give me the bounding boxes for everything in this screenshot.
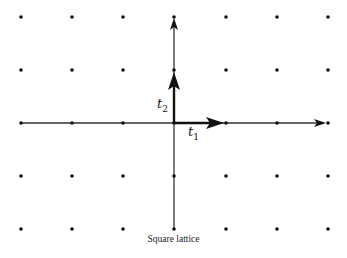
- lattice-point: [172, 121, 176, 125]
- figure-caption: Square lattice: [0, 234, 347, 244]
- vector-t2-label: t2: [157, 96, 168, 114]
- lattice-point: [19, 121, 23, 125]
- basis-vectors: [168, 72, 224, 129]
- lattice-point: [224, 15, 228, 19]
- lattice-point: [121, 68, 125, 72]
- lattice-point: [172, 174, 176, 178]
- lattice-point: [275, 227, 279, 231]
- lattice-point: [326, 15, 330, 19]
- lattice-point: [172, 15, 176, 19]
- lattice-figure: [0, 0, 347, 258]
- lattice-point: [70, 121, 74, 125]
- lattice-point: [19, 174, 23, 178]
- vector-t1-label: t1: [188, 124, 199, 142]
- lattice-point: [121, 15, 125, 19]
- lattice-point: [19, 227, 23, 231]
- lattice-point: [121, 174, 125, 178]
- lattice-point: [224, 227, 228, 231]
- lattice-point: [326, 68, 330, 72]
- lattice-point: [70, 68, 74, 72]
- lattice-point: [224, 121, 228, 125]
- lattice-point: [326, 174, 330, 178]
- lattice-point: [275, 15, 279, 19]
- lattice-point: [275, 174, 279, 178]
- lattice-point: [19, 68, 23, 72]
- lattice-point: [121, 227, 125, 231]
- lattice-point: [275, 68, 279, 72]
- t2-subscript: 2: [162, 104, 168, 114]
- lattice-point: [172, 68, 176, 72]
- lattice-point: [275, 121, 279, 125]
- lattice-point: [326, 227, 330, 231]
- lattice-point: [70, 174, 74, 178]
- lattice-point: [224, 68, 228, 72]
- lattice-point: [172, 227, 176, 231]
- lattice-point: [19, 15, 23, 19]
- lattice-point: [326, 121, 330, 125]
- lattice-point: [70, 15, 74, 19]
- t1-subscript: 1: [193, 132, 199, 142]
- lattice-point: [224, 174, 228, 178]
- lattice-point: [121, 121, 125, 125]
- lattice-point: [70, 227, 74, 231]
